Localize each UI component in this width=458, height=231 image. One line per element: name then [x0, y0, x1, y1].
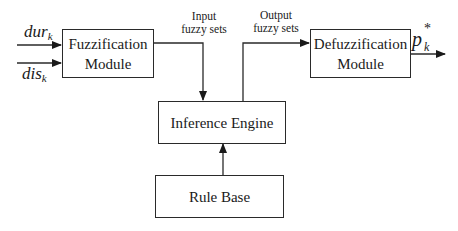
inference-engine: Inference Engine: [158, 101, 286, 144]
inference-engine-label: Inference Engine: [171, 113, 274, 133]
input-sets-line2: fuzzy sets: [172, 23, 236, 36]
fuzzification-label-line1: Fuzzification: [68, 34, 147, 54]
dur-subscript: k: [48, 30, 53, 42]
input-fuzzy-sets-label: Input fuzzy sets: [172, 10, 236, 36]
input-sets-line1: Input: [172, 10, 236, 23]
input-fuzzy-sets-arrow: [153, 43, 203, 100]
output-sets-line1: Output: [244, 9, 308, 22]
output-label: p * k: [412, 28, 422, 51]
dur-input-label: durk: [24, 22, 53, 42]
rule-base-label: Rule Base: [189, 187, 250, 207]
defuzzification-module: Defuzzification Module: [310, 29, 411, 78]
defuzzification-label-line1: Defuzzification: [314, 34, 407, 54]
output-sets-line2: fuzzy sets: [244, 22, 308, 35]
output-fuzzy-sets-arrow: [243, 43, 309, 101]
defuzzification-label-line2: Module: [314, 54, 407, 74]
dis-subscript: k: [42, 72, 47, 84]
dis-name: dis: [22, 64, 42, 83]
output-fuzzy-sets-label: Output fuzzy sets: [244, 9, 308, 35]
rule-base: Rule Base: [155, 175, 284, 218]
dur-name: dur: [24, 22, 48, 41]
output-superscript: *: [424, 21, 431, 37]
output-name: p: [412, 28, 422, 50]
fuzzification-label-line2: Module: [68, 54, 147, 74]
dis-input-label: disk: [22, 64, 47, 84]
fuzzification-module: Fuzzification Module: [62, 29, 154, 78]
output-subscript: k: [424, 40, 429, 55]
